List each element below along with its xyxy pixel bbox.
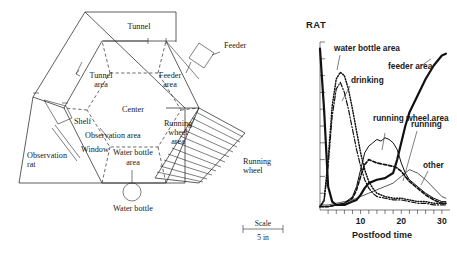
apparatus-diagram: Tunnel Tunnel area Feeder Feeder area Ce… [0,0,290,256]
series-other [320,170,446,205]
chart-x-axis-label: Postfood time [352,230,412,240]
label-running-wheel-area-3: area [171,137,185,146]
label-tunnel: Tunnel [128,22,152,31]
annotation-drinking: drinking [351,75,384,85]
label-center: Center [122,105,144,114]
label-feeder-area-2: area [163,80,177,89]
label-shelf: Shelf [74,117,92,126]
annotation-water-bottle-area: water bottle area [333,43,400,53]
label-water-bottle: Water bottle [113,204,153,213]
label-observation-rat: Observation [27,151,67,160]
label-window: Window [81,145,109,154]
scale-caption: Scale [255,219,272,228]
leader-lines [76,52,220,140]
x-axis-tick-label: 10 [356,216,366,226]
annotation-other: other [423,160,445,170]
chart-title: RAT [306,19,326,30]
label-running-wheel-2: wheel [243,166,263,175]
label-observation-rat-2: rat [27,160,36,169]
chart-annotations: water bottle area drinking feeder area r… [333,43,449,185]
rat-behavior-chart: RAT 102030 water bottle area drinking fe… [290,0,457,256]
left-partition [33,97,64,108]
x-axis-tick-label: 30 [437,216,447,226]
label-feeder-area: Feeder [159,71,182,80]
water-bottle-shape [123,170,141,201]
label-tunnel-area: Tunnel [90,71,114,80]
x-axis-tick-labels: 102030 [356,216,447,226]
shelf-shape [44,100,72,124]
label-feeder: Feeder [224,41,247,50]
scale-value: 5 in [257,233,269,242]
label-water-bottle-area-2: area [126,158,140,167]
label-running-wheel-area-2: wheel [168,128,188,137]
scale-bar: Scale 5 in [243,219,283,242]
label-tunnel-area-2: area [94,80,108,89]
label-observation-area: Observation area [85,131,141,140]
label-running-wheel-area: Running [164,119,192,128]
x-axis-tick-label: 20 [397,216,407,226]
label-running-wheel: Running [243,157,271,166]
label-water-bottle-area: Water bottle [113,148,153,157]
x-axis-ticks [328,210,442,214]
annotation-running: running [411,119,442,129]
